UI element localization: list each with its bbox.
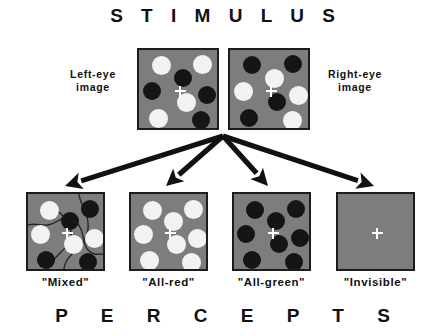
arrow-to-mixed-head	[65, 173, 84, 189]
dark-dot	[287, 200, 305, 218]
dark-dot	[37, 251, 55, 269]
light-dot	[193, 55, 212, 74]
dark-dot	[237, 225, 255, 243]
dark-dot	[285, 253, 303, 271]
light-dot	[184, 200, 203, 219]
percept-panel-all-red	[129, 192, 208, 271]
arrow-to-mixed-shaft	[80, 134, 223, 184]
dark-dot	[243, 56, 261, 74]
light-dot	[182, 253, 201, 272]
percept-label-1: "Mixed"	[8, 276, 123, 288]
dark-dot	[291, 229, 309, 247]
dark-dot	[81, 200, 99, 218]
light-dot	[140, 251, 159, 270]
light-dot	[85, 229, 104, 248]
percept-label-4: "Invisible"	[318, 276, 433, 288]
light-dot	[152, 56, 171, 75]
percept-panel-invisible	[336, 192, 415, 271]
fixation-cross	[165, 228, 176, 239]
percepts-title: P E R C E P T S	[0, 305, 445, 327]
dark-dot	[192, 111, 210, 129]
fixation-cross	[62, 228, 73, 239]
fixation-cross	[266, 86, 277, 97]
dark-dot	[243, 251, 261, 269]
dark-dot	[174, 69, 192, 87]
binocular-rivalry-figure: S T I M U L U S Left-eye image Right-eye…	[0, 0, 445, 336]
percept-panel-all-green	[232, 192, 311, 271]
dark-dot	[284, 55, 302, 73]
percept-panel-mixed	[26, 192, 105, 271]
dark-dot	[79, 253, 97, 271]
light-dot	[143, 201, 162, 220]
percept-label-3: "All-green"	[214, 276, 329, 288]
light-dot	[149, 109, 168, 128]
light-dot	[234, 82, 253, 101]
dark-dot	[240, 109, 258, 127]
dark-dot	[246, 201, 264, 219]
light-dot	[31, 225, 50, 244]
left-eye-stimulus-panel	[137, 48, 219, 130]
percept-label-2: "All-red"	[111, 276, 226, 288]
arrow-to-invisible-head	[355, 173, 374, 189]
light-dot	[134, 225, 153, 244]
light-dot	[289, 86, 308, 105]
light-dot	[188, 229, 207, 248]
fixation-cross	[268, 228, 279, 239]
dark-dot	[198, 86, 216, 104]
light-dot	[40, 201, 59, 220]
light-dot	[283, 111, 302, 130]
fixation-cross	[175, 86, 186, 97]
fixation-cross	[372, 228, 383, 239]
dark-dot	[143, 82, 161, 100]
right-eye-stimulus-panel	[228, 48, 310, 130]
